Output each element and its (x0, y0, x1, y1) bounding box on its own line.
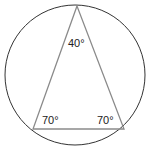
apex-angle-label: 40° (68, 37, 85, 49)
base-right-angle-label: 70° (97, 114, 114, 126)
inscribed-triangle-diagram: 40° 70° 70° (0, 0, 149, 147)
circumscribed-circle (5, 5, 145, 145)
isosceles-triangle (33, 6, 124, 129)
base-left-angle-label: 70° (42, 114, 59, 126)
